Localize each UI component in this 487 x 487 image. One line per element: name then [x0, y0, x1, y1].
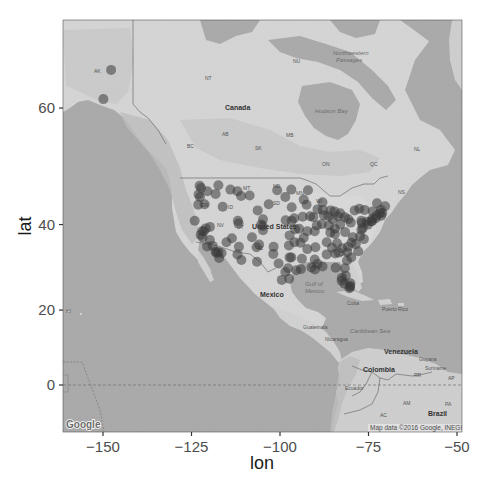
data-point	[236, 255, 246, 265]
label-northwestern-passages-2: Passages	[336, 57, 362, 63]
label-nl: NL	[414, 146, 421, 152]
data-point	[297, 254, 307, 264]
label-mb: MB	[286, 132, 294, 138]
label-venezuela: Venezuela	[384, 348, 418, 355]
data-point	[331, 263, 341, 273]
data-point	[277, 275, 287, 285]
data-point	[254, 240, 264, 250]
label-sk: SK	[255, 145, 262, 151]
data-point	[200, 199, 210, 209]
data-point	[302, 200, 312, 210]
label-brazil: Brazil	[428, 410, 447, 417]
label-guyana: Guyana	[419, 356, 437, 362]
label-northwestern-passages: Northwestern	[333, 50, 369, 56]
data-point	[296, 264, 306, 274]
label-sd: SD	[273, 200, 280, 206]
data-point	[296, 238, 306, 248]
label-gulf-of-mexico: Gulf of	[305, 281, 324, 287]
google-logo: Google	[66, 419, 101, 430]
data-point	[322, 249, 332, 259]
y-tick-label: 20	[38, 301, 55, 318]
data-point	[286, 252, 296, 262]
label-nv: NV	[217, 222, 225, 228]
data-point	[326, 205, 336, 215]
data-point	[268, 249, 278, 259]
data-point	[318, 197, 328, 207]
map-panel: AK NT NU BC AB SK MB ON QC NL NS ND MT S…	[63, 20, 462, 432]
label-guatemala: Guatemala	[303, 324, 328, 330]
label-mt: MT	[243, 185, 250, 191]
data-point	[106, 65, 116, 75]
map-scatter-plot: AK NT NU BC AB SK MB ON QC NL NS ND MT S…	[0, 0, 487, 487]
label-id: ID	[228, 204, 233, 210]
label-mexico: Mexico	[260, 291, 284, 298]
data-point	[346, 218, 356, 228]
data-point	[272, 185, 282, 195]
data-point	[234, 242, 244, 252]
x-tick-label: −150	[86, 438, 120, 455]
label-ab: AB	[222, 131, 229, 137]
x-tick-label: −125	[175, 438, 209, 455]
label-ac: AC	[380, 412, 387, 418]
data-point	[325, 228, 335, 238]
data-point	[253, 205, 263, 215]
data-point	[347, 238, 357, 248]
data-point	[280, 192, 290, 202]
x-tick-label: −50	[444, 438, 469, 455]
label-am: AM	[403, 400, 411, 406]
label-colombia: Colombia	[363, 366, 395, 373]
data-point	[227, 233, 237, 243]
label-on: ON	[322, 161, 330, 167]
data-point	[274, 259, 284, 269]
data-point	[218, 202, 228, 212]
data-point	[264, 199, 274, 209]
data-point	[252, 257, 262, 267]
label-ns: NS	[398, 189, 406, 195]
label-hudson-bay: Hudson Bay	[315, 108, 349, 114]
data-point	[310, 242, 320, 252]
data-point	[287, 202, 297, 212]
label-hi: HI	[66, 308, 71, 314]
data-point	[211, 189, 221, 199]
data-point	[190, 216, 200, 226]
data-point	[281, 215, 291, 225]
label-caribbean-sea: Caribbean Sea	[350, 328, 391, 334]
data-point	[344, 283, 354, 293]
data-point	[247, 232, 257, 242]
data-point	[258, 225, 268, 235]
y-tick-label: 60	[38, 99, 55, 116]
label-ecuador: Ecuador	[345, 385, 364, 391]
x-axis-title: lon	[250, 453, 274, 473]
y-axis: 0204060	[38, 99, 63, 393]
y-axis-title: lat	[15, 216, 35, 235]
label-rr: RR	[414, 372, 422, 378]
data-point	[303, 185, 313, 195]
x-tick-label: −75	[356, 438, 381, 455]
data-point	[372, 198, 382, 208]
label-nt: NT	[205, 75, 212, 81]
y-tick-label: 0	[47, 376, 55, 393]
data-point	[335, 208, 345, 218]
label-nicaragua: Nicaragua	[325, 336, 348, 342]
data-point	[258, 214, 268, 224]
y-tick-label: 40	[38, 216, 55, 233]
label-puerto-rico: Puerto Rico	[382, 306, 408, 312]
label-ak: AK	[94, 68, 101, 74]
label-qc: QC	[370, 161, 378, 167]
label-suriname: Suriname	[425, 365, 447, 371]
data-point	[350, 205, 360, 215]
label-cuba: Cuba	[347, 300, 359, 306]
label-nu: NU	[293, 58, 301, 64]
data-point	[217, 248, 227, 258]
map-attribution: Map data ©2016 Google, INEGI	[370, 424, 462, 432]
data-point	[334, 248, 344, 258]
data-point	[233, 186, 243, 196]
data-point	[213, 180, 223, 190]
label-pa: PA	[445, 401, 452, 407]
data-point	[98, 94, 108, 104]
label-gulf-of-mexico-2: Mexico	[305, 288, 325, 294]
label-ap: AP	[448, 375, 455, 381]
label-bc: BC	[187, 143, 194, 149]
data-point	[234, 219, 244, 229]
label-canada: Canada	[225, 104, 250, 111]
